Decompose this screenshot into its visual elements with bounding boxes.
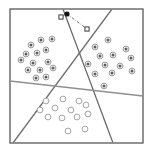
- figure-root: [0, 0, 150, 154]
- data-point-core: [112, 54, 115, 57]
- data-point-core: [99, 55, 102, 58]
- query-point-marker: [64, 11, 69, 16]
- data-point-hollow: [85, 111, 91, 117]
- data-point-hollow: [83, 102, 89, 108]
- data-point-core: [94, 46, 97, 49]
- data-point-core: [27, 69, 30, 72]
- data-point-core: [39, 69, 42, 72]
- data-point-core: [52, 67, 55, 70]
- data-point-core: [104, 64, 107, 67]
- data-point-core: [25, 53, 28, 56]
- data-point-hollow: [76, 98, 82, 104]
- data-point-hollow: [65, 128, 71, 134]
- data-point-hollow: [43, 98, 49, 104]
- data-point-core: [47, 61, 50, 64]
- data-point-hollow: [74, 114, 80, 120]
- data-point-hollow: [60, 96, 66, 102]
- prototype-square-marker: [85, 27, 89, 31]
- scatter-plot-svg: [0, 0, 150, 154]
- data-point-core: [94, 73, 97, 76]
- plot-frame-layer: [10, 9, 143, 143]
- data-point-core: [111, 72, 114, 75]
- data-point-hollow: [37, 107, 43, 113]
- data-point-hollow: [59, 115, 65, 121]
- data-point-hollow: [45, 114, 51, 120]
- data-point-core: [45, 76, 48, 79]
- data-point-core: [107, 39, 110, 42]
- data-point-hollow: [68, 107, 74, 113]
- data-point-core: [103, 85, 106, 88]
- data-point-core: [45, 49, 48, 52]
- data-point-core: [51, 38, 54, 41]
- data-point-core: [131, 70, 134, 73]
- data-point-core: [40, 39, 43, 42]
- data-point-core: [87, 63, 90, 66]
- series-query-point: [64, 11, 69, 16]
- data-point-core: [36, 52, 39, 55]
- data-point-core: [119, 65, 122, 68]
- data-point-core: [30, 44, 33, 47]
- data-point-hollow: [82, 126, 88, 132]
- data-point-hollow: [52, 105, 58, 111]
- data-point-core: [125, 48, 128, 51]
- data-point-core: [20, 59, 23, 62]
- data-point-core: [35, 77, 38, 80]
- data-point-core: [32, 62, 35, 65]
- data-point-core: [130, 57, 133, 60]
- prototype-square-marker: [59, 15, 63, 19]
- plot-frame: [10, 9, 143, 143]
